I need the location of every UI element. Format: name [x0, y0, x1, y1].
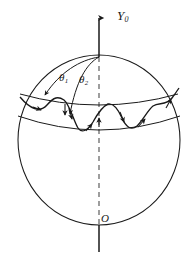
- trajectory-arrow-6: [166, 99, 171, 108]
- theta2-label-subscript: 2: [84, 79, 88, 86]
- figure-canvas: [0, 0, 196, 263]
- y-axis-label: Y0: [117, 9, 129, 24]
- theta1-label-subscript: 1: [64, 77, 68, 84]
- spherical-trajectory-figure: Y0 θ1 θ2 O: [0, 0, 196, 263]
- theta1-label: θ1: [59, 72, 68, 85]
- trajectory-arrow-4: [120, 112, 124, 122]
- y-axis-label-subscript: 0: [124, 15, 128, 24]
- origin-label: O: [101, 213, 109, 224]
- theta2-label: θ2: [79, 74, 88, 87]
